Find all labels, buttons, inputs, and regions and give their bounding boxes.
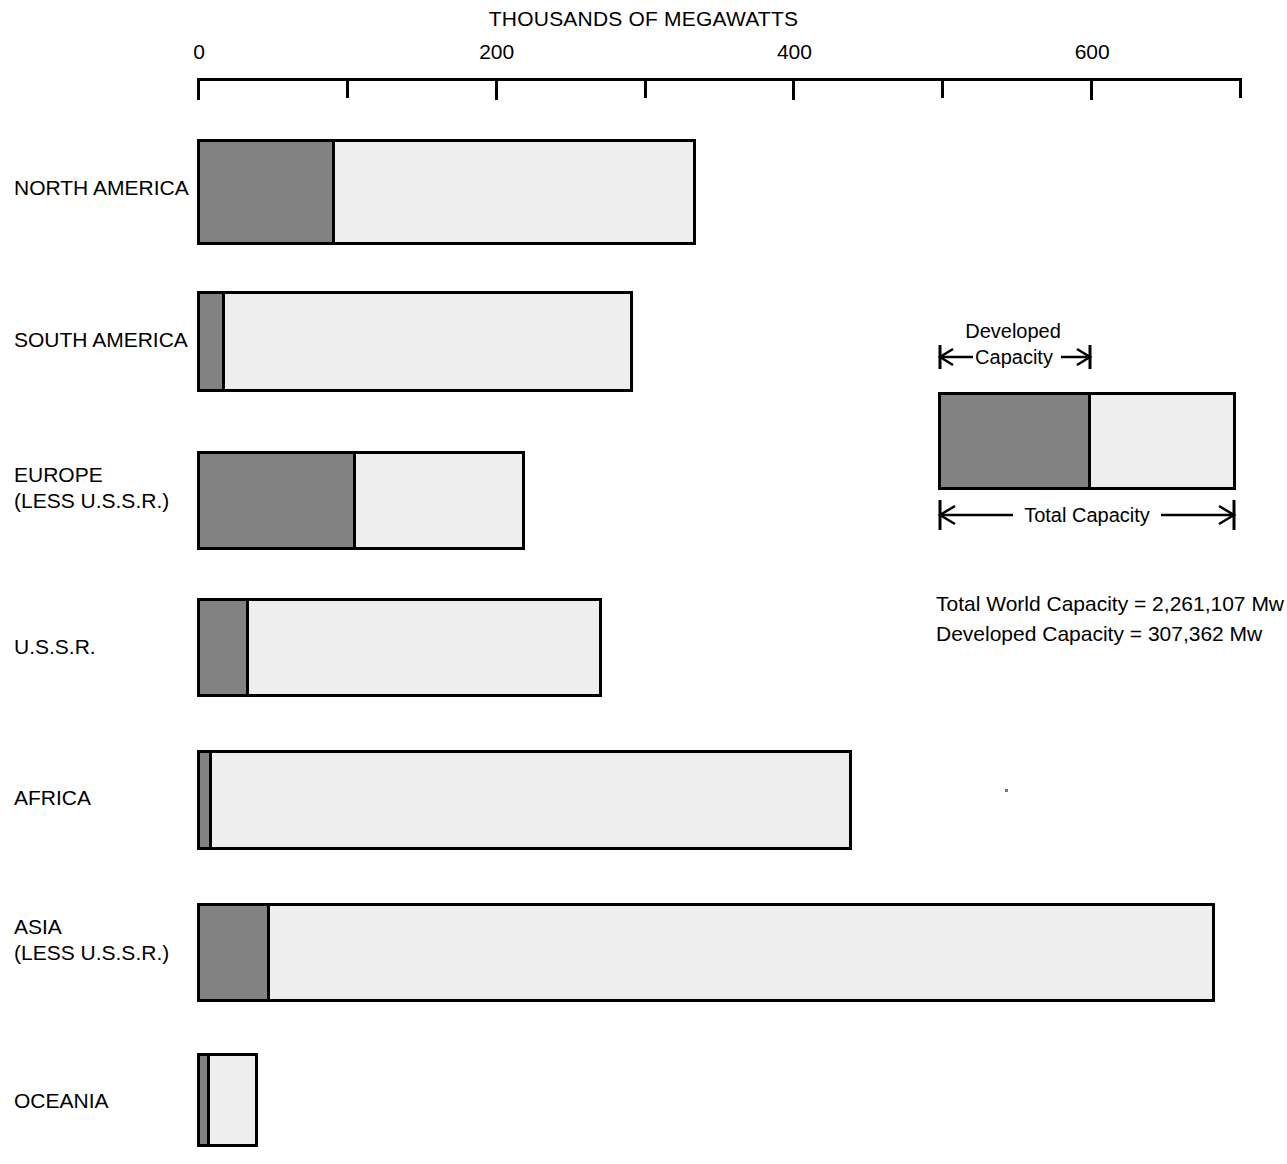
bar-3	[197, 598, 602, 697]
bar-developed-segment-3	[200, 601, 249, 694]
axis-tick-500	[941, 78, 944, 98]
axis-tick-600	[1090, 78, 1093, 100]
legend-total-caption: Total Capacity	[1013, 503, 1161, 527]
bar-6	[197, 1053, 258, 1147]
developed-capacity-text: Developed Capacity = 307,362 Mw	[936, 619, 1262, 649]
chart-title: THOUSANDS OF MEGAWATTS	[0, 7, 1287, 31]
category-label-0: NORTH AMERICA	[14, 175, 189, 201]
category-label-3: U.S.S.R.	[14, 634, 96, 660]
legend-developed-caption-line1: Developed	[938, 319, 1088, 343]
developed-capacity-arrow-icon	[933, 343, 1093, 373]
legend-developed-caption-line2: Capacity	[968, 345, 1060, 369]
axis-tick-label-200: 200	[479, 40, 514, 64]
axis-tick-400	[792, 78, 795, 100]
bar-developed-segment-0	[200, 142, 335, 242]
x-axis: 0200400600	[0, 40, 1287, 100]
axis-line	[197, 78, 1242, 81]
stray-speck	[1005, 789, 1008, 792]
bar-developed-segment-4	[200, 753, 212, 847]
axis-tick-label-600: 600	[1075, 40, 1110, 64]
axis-tick-700	[1239, 78, 1242, 98]
total-world-capacity-text: Total World Capacity = 2,261,107 Mw	[936, 589, 1284, 619]
bar-2	[197, 451, 525, 550]
category-label-6: OCEANIA	[14, 1088, 109, 1114]
bar-0	[197, 139, 696, 245]
legend-developed-segment	[941, 395, 1091, 487]
category-label-1: SOUTH AMERICA	[14, 327, 188, 353]
axis-tick-200	[495, 78, 498, 100]
axis-tick-label-0: 0	[193, 40, 205, 64]
axis-tick-label-400: 400	[777, 40, 812, 64]
axis-tick-0	[197, 78, 200, 100]
legend-sample-bar	[938, 392, 1236, 490]
bar-developed-segment-5	[200, 906, 270, 999]
category-label-4: AFRICA	[14, 785, 91, 811]
category-label-2: EUROPE (LESS U.S.S.R.)	[14, 462, 169, 514]
category-label-5: ASIA (LESS U.S.S.R.)	[14, 914, 169, 966]
axis-tick-300	[644, 78, 647, 98]
axis-tick-100	[346, 78, 349, 98]
total-capacity-arrow-icon	[935, 498, 1239, 532]
bar-5	[197, 903, 1215, 1002]
bar-developed-segment-1	[200, 294, 225, 389]
bar-developed-segment-6	[200, 1056, 210, 1144]
bar-developed-segment-2	[200, 454, 356, 547]
bar-chart: THOUSANDS OF MEGAWATTS 0200400600 NORTH …	[0, 0, 1287, 1164]
bar-1	[197, 291, 633, 392]
bar-4	[197, 750, 852, 850]
